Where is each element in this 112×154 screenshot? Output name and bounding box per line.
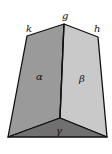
face-label-beta: β — [78, 73, 85, 84]
dihedral-figure: k g h α β γ — [0, 0, 112, 154]
vertex-label-g: g — [62, 10, 68, 21]
vertex-label-k: k — [26, 23, 32, 34]
face-label-gamma: γ — [56, 125, 62, 136]
face-label-alpha: α — [36, 71, 43, 82]
vertex-label-h: h — [94, 23, 100, 34]
